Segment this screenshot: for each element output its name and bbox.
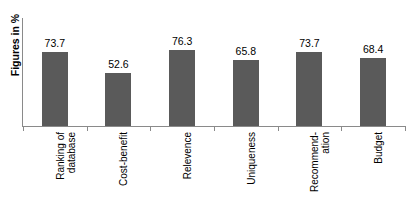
bar-value-label: 65.8	[236, 45, 256, 57]
category-label-group: Relevence	[150, 132, 214, 199]
category-label: Relevence	[182, 132, 193, 198]
category-label-group: Ranking of database	[23, 132, 87, 199]
bar-group: 68.4	[341, 8, 405, 126]
bar-group: 76.3	[150, 8, 214, 126]
axis-tick	[405, 126, 406, 131]
bar	[360, 58, 386, 126]
bar	[296, 52, 322, 126]
category-label-group: Uniqueness	[214, 132, 278, 199]
x-axis-category-labels: Ranking of databaseCost-benefitRelevence…	[23, 132, 405, 199]
bar-value-label: 76.3	[172, 35, 192, 47]
axis-tick	[214, 126, 215, 131]
bar-value-label: 73.7	[45, 37, 65, 49]
plot-area: 73.752.676.365.873.768.4	[23, 8, 405, 126]
axis-tick	[87, 126, 88, 131]
category-label: Uniqueness	[246, 132, 257, 198]
axis-tick	[150, 126, 151, 131]
axis-tick	[341, 126, 342, 131]
bar	[233, 60, 259, 126]
category-label: Cost-benefit	[118, 132, 129, 198]
axis-tick	[278, 126, 279, 131]
bar	[42, 52, 68, 126]
bar-value-label: 52.6	[108, 58, 128, 70]
axis-tick	[23, 126, 24, 131]
category-label: Recommend- ation	[309, 132, 331, 198]
category-label-group: Budget	[341, 132, 405, 199]
category-label-group: Recommend- ation	[278, 132, 342, 199]
bar-chart: Figures in % 73.752.676.365.873.768.4 Ra…	[0, 0, 407, 199]
category-label: Budget	[373, 132, 384, 198]
bar-value-label: 68.4	[363, 43, 383, 55]
bar-group: 52.6	[87, 8, 151, 126]
bar-group: 73.7	[278, 8, 342, 126]
bar-value-label: 73.7	[299, 37, 319, 49]
y-axis-title: Figures in %	[8, 5, 22, 85]
bar-group: 73.7	[23, 8, 87, 126]
category-label: Ranking of database	[55, 132, 77, 198]
category-label-group: Cost-benefit	[87, 132, 151, 199]
bar	[169, 50, 195, 126]
bar-group: 65.8	[214, 8, 278, 126]
bar	[105, 73, 131, 126]
